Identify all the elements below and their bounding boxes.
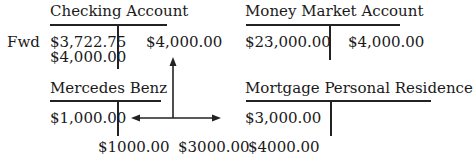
arrow-up-icon: [170, 57, 177, 118]
footer-amount-2: $3000.00: [178, 138, 250, 156]
footer-amount-1: $1000.00: [98, 138, 170, 156]
footer-amount-3: $4000.00: [248, 138, 320, 156]
arrow-right-icon: [173, 115, 221, 122]
arrow-left-icon: [131, 115, 173, 122]
